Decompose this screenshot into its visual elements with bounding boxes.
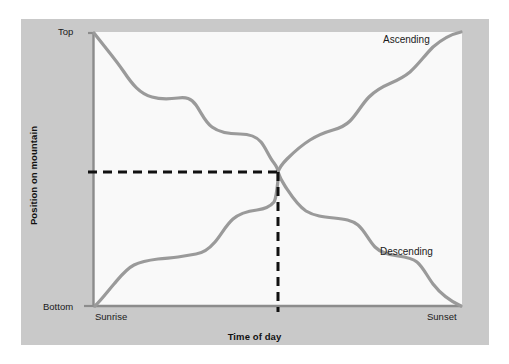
x-axis-tick-label-sunset: Sunset [427, 312, 457, 322]
figure-canvas: Top Bottom Sunrise Sunset Time of day Po… [0, 0, 509, 364]
y-axis-tick-label-top: Top [58, 27, 73, 37]
series-label-descending: Descending [380, 247, 433, 257]
y-axis-title: Position on mountain [28, 96, 39, 256]
y-axis-tick-label-bottom: Bottom [43, 302, 73, 312]
x-axis-title: Time of day [0, 331, 509, 342]
series-label-ascending: Ascending [383, 35, 430, 45]
x-axis-tick-label-sunrise: Sunrise [95, 312, 127, 322]
plot-area [93, 32, 462, 307]
